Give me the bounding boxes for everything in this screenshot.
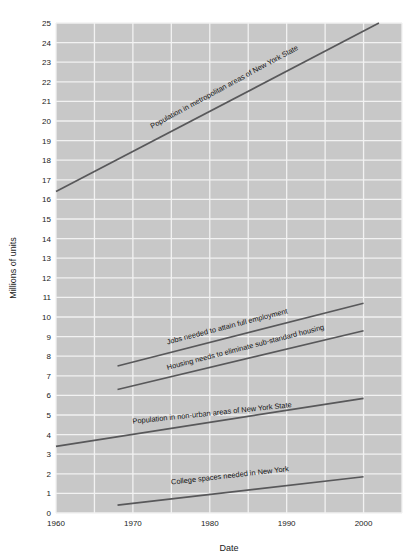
y-tick-label: 5 <box>47 411 52 420</box>
y-tick-label: 16 <box>42 195 51 204</box>
y-tick-label: 21 <box>42 97 51 106</box>
y-axis-title: Millions of units <box>8 237 18 299</box>
y-tick-label: 3 <box>47 450 52 459</box>
y-axis-tick-labels: 0123456789101112131415161718192021222324… <box>42 19 51 518</box>
y-tick-label: 25 <box>42 19 51 28</box>
line-chart: 0123456789101112131415161718192021222324… <box>0 0 407 556</box>
y-tick-label: 8 <box>47 352 52 361</box>
y-tick-label: 17 <box>42 176 51 185</box>
y-tick-label: 2 <box>47 470 52 479</box>
x-axis-title: Date <box>219 543 238 553</box>
x-tick-label: 1960 <box>47 519 65 528</box>
y-tick-label: 1 <box>47 489 52 498</box>
y-tick-label: 10 <box>42 313 51 322</box>
y-tick-label: 18 <box>42 156 51 165</box>
x-tick-label: 2000 <box>355 519 373 528</box>
y-tick-label: 14 <box>42 235 51 244</box>
y-tick-label: 24 <box>42 39 51 48</box>
x-tick-label: 1980 <box>201 519 219 528</box>
y-tick-label: 6 <box>47 391 52 400</box>
y-tick-label: 7 <box>47 372 52 381</box>
y-tick-label: 20 <box>42 117 51 126</box>
y-tick-label: 12 <box>42 274 51 283</box>
y-tick-label: 19 <box>42 137 51 146</box>
y-tick-label: 13 <box>42 254 51 263</box>
chart-figure: 0123456789101112131415161718192021222324… <box>0 0 407 556</box>
x-axis-tick-labels: 19601970198019902000 <box>47 519 373 528</box>
y-tick-label: 22 <box>42 78 51 87</box>
y-tick-label: 23 <box>42 58 51 67</box>
y-tick-label: 4 <box>47 431 52 440</box>
x-tick-label: 1990 <box>278 519 296 528</box>
x-tick-label: 1970 <box>124 519 142 528</box>
y-tick-label: 11 <box>43 293 52 302</box>
y-tick-label: 15 <box>42 215 51 224</box>
y-tick-label: 0 <box>47 509 52 518</box>
y-tick-label: 9 <box>47 333 52 342</box>
plot-background <box>56 23 402 513</box>
